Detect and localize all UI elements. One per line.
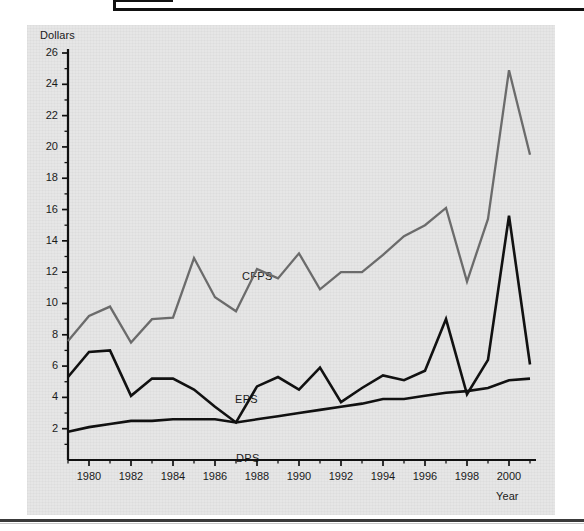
line-chart-plot (27, 25, 555, 515)
x-tick-label: 1980 (69, 470, 109, 482)
x-tick-label: 1984 (153, 470, 193, 482)
y-tick-label: 6 (36, 359, 58, 371)
y-tick-label: 18 (36, 171, 58, 183)
chart-series-lines (68, 70, 530, 432)
y-tick-label: 26 (36, 46, 58, 58)
page-bottom-rule-faint (0, 523, 584, 524)
x-tick-label: 1988 (237, 470, 277, 482)
y-tick-label: 22 (36, 109, 58, 121)
x-tick-label: 1982 (111, 470, 151, 482)
page-frame-top-stub (113, 0, 173, 2)
y-tick-label: 24 (36, 77, 58, 89)
x-tick-label: 1986 (195, 470, 235, 482)
x-tick-label: 1994 (363, 470, 403, 482)
y-tick-label: 2 (36, 422, 58, 434)
y-tick-label: 16 (36, 203, 58, 215)
screenshot-page: Dollars Year CFPS EPS DPS 24681012141618… (0, 0, 584, 531)
x-tick-label: 1992 (321, 470, 361, 482)
page-frame-top-horizontal (113, 8, 584, 11)
chart-panel: Dollars Year CFPS EPS DPS 24681012141618… (27, 25, 555, 515)
x-tick-label: 1990 (279, 470, 319, 482)
y-tick-label: 10 (36, 296, 58, 308)
y-tick-label: 20 (36, 140, 58, 152)
y-tick-label: 8 (36, 328, 58, 340)
x-tick-label: 1998 (447, 470, 487, 482)
page-bottom-rule (0, 519, 584, 522)
y-tick-label: 4 (36, 390, 58, 402)
series-line-dps (68, 379, 530, 432)
y-tick-label: 14 (36, 234, 58, 246)
series-line-cfps (68, 70, 530, 342)
chart-axes (68, 49, 536, 460)
y-tick-label: 12 (36, 265, 58, 277)
x-tick-label: 1996 (405, 470, 445, 482)
x-tick-label: 2000 (489, 470, 529, 482)
